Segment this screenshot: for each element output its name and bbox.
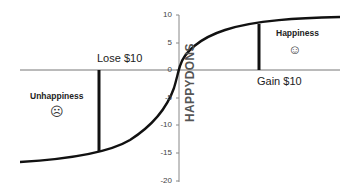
y-tick-label: -5 bbox=[152, 93, 172, 102]
y-tick-label: 0 bbox=[152, 65, 172, 74]
y-tick-label: -20 bbox=[152, 176, 172, 185]
sad-face-icon: ☹ bbox=[50, 104, 64, 119]
y-tick-label: 5 bbox=[152, 38, 172, 47]
y-tick-label: 10 bbox=[152, 10, 172, 19]
smile-face-icon: ☺ bbox=[288, 42, 301, 57]
unhappiness-label: Unhappiness bbox=[30, 91, 83, 101]
lose-label: Lose $10 bbox=[97, 52, 142, 64]
y-tick-label: -15 bbox=[152, 148, 172, 157]
value-function-curve bbox=[20, 17, 340, 162]
happiness-label: Happiness bbox=[276, 28, 319, 38]
gain-label: Gain $10 bbox=[257, 75, 302, 87]
y-axis-title: HAPPYDONS bbox=[183, 43, 197, 122]
y-tick-label: -10 bbox=[152, 120, 172, 129]
